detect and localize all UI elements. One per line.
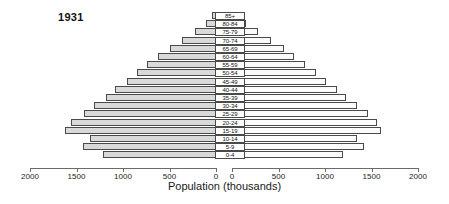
age-group-label-55-59: 55-59 — [215, 61, 245, 69]
age-group-label-75-79: 75-79 — [215, 28, 245, 36]
bar-female-5-9 — [232, 143, 364, 150]
x-axis-title: Population (thousands) — [0, 180, 449, 192]
bar-male-45-49 — [127, 78, 216, 85]
age-group-label-25-29: 25-29 — [215, 110, 245, 118]
bar-male-10-14 — [90, 135, 216, 142]
bar-male-50-54 — [137, 69, 216, 76]
bar-female-45-49 — [232, 78, 326, 85]
bar-male-65-69 — [170, 45, 217, 52]
bar-male-35-39 — [106, 94, 216, 101]
bar-male-15-19 — [65, 127, 216, 134]
bar-male-30-34 — [94, 102, 216, 109]
age-group-label-15-19: 15-19 — [215, 127, 245, 135]
bar-male-25-29 — [84, 110, 216, 117]
age-group-label-80-84: 80-84 — [215, 20, 245, 28]
bar-female-40-44 — [232, 86, 337, 93]
age-group-label-70-74: 70-74 — [215, 37, 245, 45]
bar-female-30-34 — [232, 102, 357, 109]
bar-male-55-59 — [147, 61, 216, 68]
age-group-label-10-14: 10-14 — [215, 135, 245, 143]
population-pyramid-chart: 1931 85+80-8475-7970-7465-6960-6455-5950… — [0, 0, 449, 204]
age-group-label-65-69: 65-69 — [215, 45, 245, 53]
bar-male-40-44 — [115, 86, 216, 93]
bar-female-20-24 — [232, 119, 377, 126]
age-group-label-0-4: 0-4 — [215, 151, 245, 159]
age-group-label-5-9: 5-9 — [215, 143, 245, 151]
bar-female-25-29 — [232, 110, 368, 117]
age-group-label-50-54: 50-54 — [215, 69, 245, 77]
bar-male-0-4 — [103, 151, 216, 158]
bar-female-10-14 — [232, 135, 357, 142]
bar-female-15-19 — [232, 127, 381, 134]
bar-male-60-64 — [158, 53, 216, 60]
plot-area: 85+80-8475-7970-7465-6960-6455-5950-5445… — [0, 0, 449, 204]
age-group-label-35-39: 35-39 — [215, 94, 245, 102]
bar-male-70-74 — [182, 37, 216, 44]
bar-female-35-39 — [232, 94, 346, 101]
age-group-label-20-24: 20-24 — [215, 119, 245, 127]
bar-male-5-9 — [83, 143, 216, 150]
age-group-label-60-64: 60-64 — [215, 53, 245, 61]
age-group-label-40-44: 40-44 — [215, 86, 245, 94]
bar-male-75-79 — [195, 28, 216, 35]
age-group-label-85+: 85+ — [215, 12, 245, 20]
bar-female-0-4 — [232, 151, 343, 158]
age-group-label-30-34: 30-34 — [215, 102, 245, 110]
bar-male-20-24 — [71, 119, 216, 126]
age-group-label-45-49: 45-49 — [215, 78, 245, 86]
